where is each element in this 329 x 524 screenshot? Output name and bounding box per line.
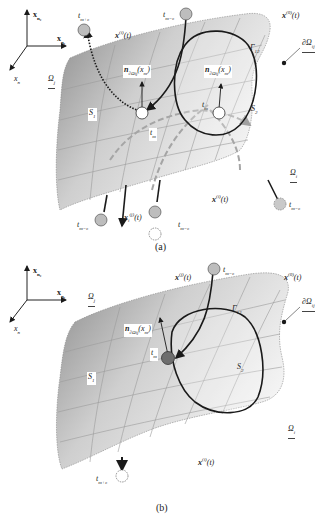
axis-label-n2: xn₂ [33, 266, 41, 279]
label-x-j-t-top: x(j)(t) [175, 270, 191, 282]
label-x-0-t: x(0)(t) [282, 8, 299, 20]
point-ghost-bottom [149, 228, 161, 240]
point-t-m-plus-e [116, 470, 128, 482]
panel-b-drawing [0, 262, 329, 524]
label-normal: n∂Ωij(xm) [124, 324, 152, 337]
interface-gamma12 [174, 31, 256, 135]
axis-label-n1: xn₁ [57, 288, 65, 301]
label-omega-i: Ωi [288, 424, 295, 439]
point-t-m-minus-e-top [208, 263, 220, 275]
label-s1: S1 [88, 108, 97, 121]
panel-a: xn₂ xn₁ xn tm+ε x(i)(t) tm−ε x(0)(t) Γ12… [0, 0, 329, 262]
label-t-m-minus-e-br: tm−ε [289, 200, 300, 213]
label-s1: S1 [87, 372, 96, 385]
point-tm-right [213, 107, 225, 119]
label-boundary-omega-ij: ∂Ωij [302, 297, 315, 312]
label-omega-j: Ωj [88, 292, 95, 307]
label-x-i-t-bottom: xi(j)(t) [124, 210, 142, 225]
label-tm: tm [150, 348, 158, 361]
panel-a-drawing [0, 0, 329, 262]
point-t-m-plus-e [78, 24, 90, 36]
point-t-m-minus-e-br [274, 198, 286, 210]
label-x-0-t: x(0)(t) [284, 270, 301, 282]
label-x-i-t-top: x(i)(t) [115, 28, 131, 40]
label-s2: S2 [237, 362, 244, 375]
label-omega-j: Ωj [48, 74, 55, 89]
label-normal-right: n∂Ωij(xm) [204, 65, 232, 78]
label-t-m-minus-e-top: tm−ε [223, 265, 234, 278]
axis-label-n: xn [14, 74, 20, 87]
label-gamma-12: Γ12 [232, 304, 242, 317]
label-tm-right: tm [202, 100, 208, 113]
point-tm-left [136, 107, 148, 119]
axis-label-n2: xn₂ [33, 10, 41, 23]
caption-a: (a) [155, 241, 166, 252]
label-x-1-t: x(i)(t) [198, 455, 214, 467]
label-tm-left: tm [149, 128, 157, 141]
label-t-m-minus-e-top: tm−ε [163, 10, 174, 23]
label-t-m-plus-e: tm+ε [96, 474, 107, 487]
point-t-m-minus-e-bc [149, 206, 161, 218]
point-t-m-minus-e-bl [95, 214, 107, 226]
axis-label-n: xn [14, 324, 20, 337]
label-gamma-12: Γ12 [250, 43, 260, 56]
label-normal-left: n∂Ωij(xm) [123, 65, 151, 78]
label-t-m-minus-e-bc: tm−ε [178, 220, 189, 233]
point-t-m-minus-e-top [180, 8, 192, 20]
label-omega-i: Ωi [290, 168, 297, 183]
label-t-m-plus-e: tm+ε [78, 11, 89, 24]
point-tm [162, 352, 175, 365]
caption-b: (b) [156, 502, 168, 513]
label-t-m-minus-e-bl: tm−ε [77, 220, 88, 233]
panel-b: xn₂ xn₁ xn x(j)(t) tm−ε x(0)(t) Γ12 ∂Ωij… [0, 262, 329, 524]
label-boundary-omega-ij: ∂Ωij [302, 38, 315, 53]
label-x-1-t: x(i)(t) [212, 192, 228, 204]
label-s2: S2 [251, 104, 258, 117]
axis-label-n1: xn₁ [57, 34, 65, 47]
